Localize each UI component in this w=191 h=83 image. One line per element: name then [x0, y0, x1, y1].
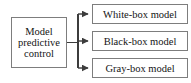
node-black-box-model[interactable]: Black-box model: [92, 31, 188, 51]
node-label: Gray-box model: [105, 63, 174, 74]
node-gray-box-model[interactable]: Gray-box model: [92, 58, 188, 78]
node-label: Black-box model: [104, 36, 177, 47]
node-label-line-1: Model: [25, 26, 52, 37]
flowchart-diagram: Model predictive control White-box model…: [0, 0, 191, 83]
node-white-box-model[interactable]: White-box model: [92, 4, 188, 24]
node-label-line-2: predictive: [18, 37, 60, 48]
node-label: White-box model: [103, 9, 177, 20]
node-label: Model predictive control: [17, 26, 61, 60]
node-label-line-3: control: [24, 48, 54, 59]
node-model-predictive-control[interactable]: Model predictive control: [11, 17, 67, 68]
